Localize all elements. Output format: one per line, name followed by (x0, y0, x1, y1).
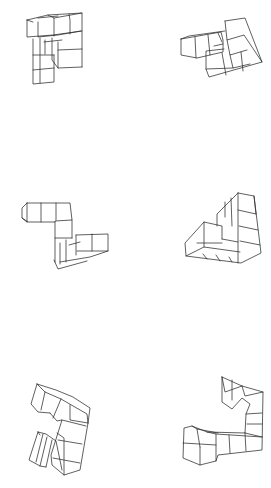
cube-edge-line (181, 32, 223, 58)
cube-edge-line (41, 392, 45, 410)
cube-edge-line (33, 39, 54, 84)
cube-edge-line (38, 22, 81, 37)
cube-edge-line (222, 53, 226, 75)
cube-edge-line (27, 20, 82, 37)
cube-edge-line (214, 44, 223, 46)
cube-edge-line (58, 49, 82, 50)
cube-edge-line (231, 198, 232, 226)
cube-edge-line (239, 226, 258, 230)
cube-edge-line (37, 384, 90, 475)
cube-edge-line (57, 433, 64, 475)
cube-edge-line (222, 239, 238, 242)
cube-edge-line (44, 40, 62, 42)
cube-edge-line (53, 458, 80, 463)
cube-edge-line (22, 218, 27, 222)
cube-edge-line (227, 40, 247, 55)
cube-edge-line (246, 413, 262, 414)
cube-edge-line (192, 426, 218, 433)
cube-edge-line (58, 440, 82, 444)
cube-edge-line (29, 432, 46, 467)
cube-edge-line (217, 193, 238, 226)
cube-edge-line (206, 18, 262, 77)
figure-3-cube-assembly (22, 203, 108, 269)
cube-edge-line (53, 399, 61, 418)
cube-edge-line (186, 247, 240, 256)
cube-edge-line (183, 377, 263, 465)
cube-edge-line (27, 20, 33, 22)
cube-edge-line (229, 435, 230, 453)
cube-figures-canvas (0, 0, 271, 488)
cube-edge-line (52, 38, 82, 68)
cube-edge-line (69, 242, 80, 245)
cube-edge-line (254, 196, 256, 214)
cube-edge-line (33, 68, 54, 70)
cube-edge-line (31, 384, 50, 413)
cube-edge-line (38, 432, 62, 470)
cube-edge-line (69, 14, 70, 34)
cube-edge-line (238, 210, 256, 214)
cube-edge-line (195, 37, 196, 58)
figure-2-cube-assembly (181, 18, 262, 77)
cube-edge-line (54, 260, 87, 269)
cube-edge-line (240, 241, 260, 245)
figure-1-cube-assembly (27, 13, 82, 84)
cube-edge-line (22, 203, 72, 222)
cube-edge-line (207, 432, 216, 461)
cube-edge-line (48, 15, 54, 36)
figure-5-cube-assembly (29, 384, 90, 475)
cube-edge-line (70, 405, 88, 423)
cube-edge-line (206, 68, 233, 69)
cube-edge-line (208, 35, 210, 55)
figure-4-cube-assembly (185, 193, 261, 263)
figure-6-cube-assembly (183, 377, 263, 465)
cube-edge-line (27, 13, 82, 67)
cube-edge-line (37, 384, 88, 423)
